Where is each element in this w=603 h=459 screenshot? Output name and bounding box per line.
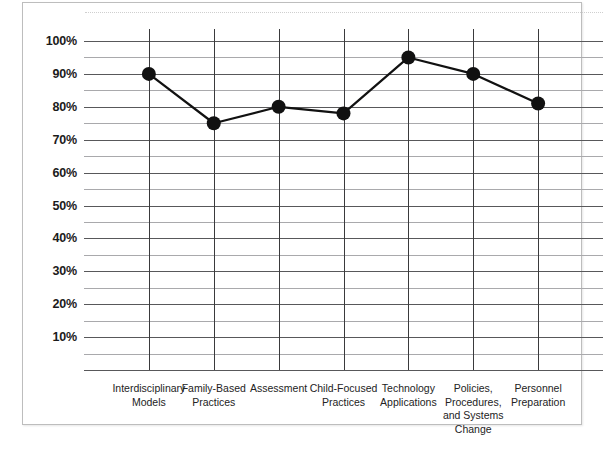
gridline-vertical [214, 29, 215, 370]
x-axis-tick-label-line: and Systems [430, 409, 516, 423]
y-axis-tick-label: 20% [53, 297, 77, 311]
gridline-vertical [149, 29, 150, 370]
gridline-vertical [408, 29, 409, 370]
x-axis-tick-label: PersonnelPreparation [495, 382, 581, 409]
x-axis-tick-label-line: Change [430, 423, 516, 437]
y-axis-tick-label: 70% [53, 133, 77, 147]
gridline-vertical [473, 29, 474, 370]
gridline-vertical [344, 29, 345, 370]
y-axis-tick-label: 40% [53, 231, 77, 245]
x-axis-tick-label-line: Practices [171, 396, 257, 410]
chart-figure-frame: 100%90%80%70%60%50%40%30%20%10% Interdis… [22, 2, 582, 425]
y-axis-tick-label: 50% [53, 199, 77, 213]
top-dotted-rule [85, 12, 603, 13]
y-axis-tick-label: 60% [53, 166, 77, 180]
y-axis-tick-label: 80% [53, 100, 77, 114]
chart-plot-area: 100%90%80%70%60%50%40%30%20%10% Interdis… [84, 41, 603, 370]
x-axis-baseline [84, 370, 603, 371]
y-axis-tick-label: 100% [46, 34, 77, 48]
gridline-vertical [279, 29, 280, 370]
y-axis-tick-label: 90% [53, 67, 77, 81]
y-axis-tick-label: 30% [53, 264, 77, 278]
x-axis-tick-label-line: Preparation [495, 396, 581, 410]
y-axis-tick-label: 10% [53, 330, 77, 344]
gridline-vertical [538, 29, 539, 370]
x-axis-tick-label-line: Personnel [495, 382, 581, 396]
